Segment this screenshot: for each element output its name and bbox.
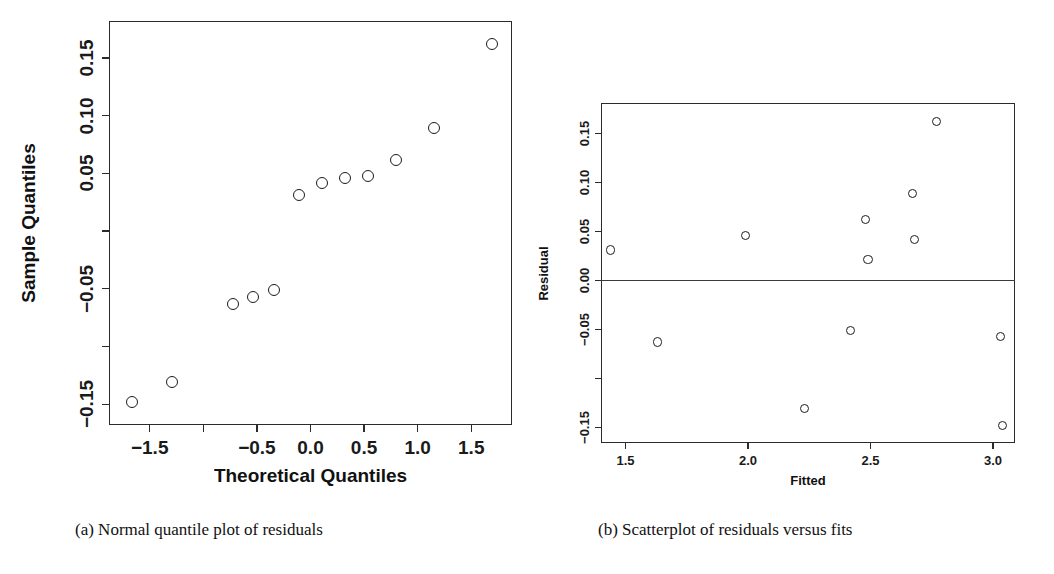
x-tick-label: 1.0: [404, 437, 430, 459]
x-tick-label: 2.0: [739, 453, 757, 468]
y-tick-label: −0.05: [76, 265, 98, 313]
y-tick-label: 0.10: [577, 170, 592, 195]
x-tick-label: 0.0: [297, 437, 323, 459]
figure-container: −1.5−0.50.00.51.01.50.150.100.05−0.05−0.…: [0, 0, 1054, 574]
plot-frame-a: [109, 21, 512, 425]
data-point: [908, 189, 917, 198]
x-tick-label: −0.5: [238, 437, 276, 459]
data-point: [268, 284, 280, 296]
plot-frame-b: [601, 103, 1015, 443]
y-tick: [102, 115, 109, 116]
y-tick: [102, 173, 109, 174]
x-tick: [747, 443, 748, 449]
x-tick-label: 1.5: [458, 437, 484, 459]
x-tick: [992, 443, 993, 449]
y-tick: [102, 57, 109, 58]
y-tick-label: 0.15: [76, 39, 98, 76]
y-tick-label: 0.15: [577, 121, 592, 146]
x-tick: [363, 425, 364, 432]
y-tick-label: −0.05: [577, 313, 592, 346]
x-tick: [149, 425, 150, 432]
x-tick-label: 3.0: [984, 453, 1002, 468]
y-axis-title: Residual: [536, 246, 551, 300]
data-point: [910, 235, 919, 244]
caption-panel-a: (a) Normal quantile plot of residuals: [75, 520, 323, 540]
x-tick-label: 2.5: [861, 453, 879, 468]
y-tick-label: −0.15: [76, 380, 98, 428]
panel-residuals-vs-fits: 1.52.02.53.00.150.100.050.00−0.05−0.15Fi…: [527, 0, 1054, 500]
data-point: [126, 396, 138, 408]
y-tick: [595, 280, 601, 281]
x-tick: [256, 425, 257, 432]
y-tick: [595, 378, 601, 379]
x-tick-label: −1.5: [131, 437, 169, 459]
y-tick-label: 0.05: [76, 155, 98, 192]
y-axis-title: Sample Quantiles: [17, 143, 39, 302]
y-tick-label: 0.05: [577, 219, 592, 244]
x-axis-title: Theoretical Quantiles: [214, 465, 407, 487]
data-point: [362, 170, 374, 182]
x-tick-label: 0.5: [351, 437, 377, 459]
y-tick-label: −0.15: [577, 411, 592, 444]
y-tick: [102, 404, 109, 405]
y-tick: [102, 230, 109, 231]
y-tick: [102, 346, 109, 347]
x-tick: [203, 425, 204, 432]
x-tick-label: 1.5: [616, 453, 634, 468]
data-point: [316, 177, 328, 189]
data-point: [653, 337, 662, 346]
y-tick-label: 0.10: [76, 97, 98, 134]
data-point: [863, 255, 872, 264]
x-tick: [625, 443, 626, 449]
data-point: [741, 231, 750, 240]
data-point: [247, 291, 259, 303]
y-tick: [595, 231, 601, 232]
data-point: [293, 189, 305, 201]
data-point: [996, 332, 1005, 341]
y-tick: [595, 133, 601, 134]
y-tick: [595, 329, 601, 330]
x-axis-title: Fitted: [790, 473, 825, 488]
y-tick-label: 0.00: [577, 268, 592, 293]
x-tick: [310, 425, 311, 432]
x-tick: [417, 425, 418, 432]
x-tick: [870, 443, 871, 449]
data-point: [606, 245, 615, 254]
data-point: [339, 172, 351, 184]
y-tick: [595, 427, 601, 428]
data-point: [486, 38, 498, 50]
y-tick: [102, 288, 109, 289]
zero-reference-line: [601, 280, 1015, 281]
caption-panel-b: (b) Scatterplot of residuals versus fits: [598, 520, 852, 540]
x-tick: [471, 425, 472, 432]
data-point: [390, 154, 402, 166]
y-tick: [595, 182, 601, 183]
panel-normal-quantile-plot: −1.5−0.50.00.51.01.50.150.100.05−0.05−0.…: [0, 0, 527, 500]
